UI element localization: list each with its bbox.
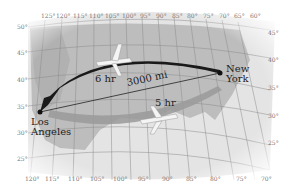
lat-label: 30° (268, 113, 279, 119)
lon-label: 110° (89, 13, 103, 19)
lon-label: 70° (219, 13, 230, 19)
new-york-marker (218, 71, 223, 76)
lon-label: 125° (41, 13, 55, 19)
lat-label: 45° (268, 30, 279, 36)
lat-label: 35° (268, 85, 279, 91)
lat-label: 40° (17, 77, 28, 83)
city-label-los-angeles: Los Angeles (31, 117, 71, 137)
eastbound-duration-label: 5 hr (155, 97, 176, 108)
lon-label: 100° (122, 13, 136, 19)
westbound-duration-label: 6 hr (95, 73, 116, 84)
lon-label: 120° (25, 176, 39, 182)
lon-label: 70° (261, 176, 272, 182)
lon-label: 85° (172, 13, 183, 19)
map-graphic (0, 0, 292, 192)
lon-label: 105° (105, 13, 119, 19)
lon-label: 75° (203, 13, 214, 19)
lon-label: 110° (68, 176, 82, 182)
lat-label: 40° (268, 57, 279, 63)
lon-label: 75° (236, 176, 247, 182)
lon-label: 100° (113, 176, 127, 182)
flight-route-map: 125° 120° 115° 110° 105° 100° 95° 90° 85… (0, 0, 292, 192)
lat-label: 45° (17, 50, 28, 56)
lon-label: 115° (45, 176, 59, 182)
city-label-new-york: New York (226, 64, 249, 84)
lon-label: 90° (156, 13, 167, 19)
lat-label: 30° (17, 130, 28, 136)
city-name-line: Angeles (31, 127, 71, 137)
lat-label: 25° (268, 140, 279, 146)
lat-label: 25° (17, 156, 28, 162)
lon-label: 120° (56, 13, 70, 19)
lon-label: 80° (210, 176, 221, 182)
los-angeles-marker (38, 110, 43, 115)
lon-label: 65° (234, 13, 245, 19)
lat-label: 50° (17, 24, 28, 30)
lon-label: 115° (73, 13, 87, 19)
lon-label: 90° (162, 176, 173, 182)
lon-label: 105° (90, 176, 104, 182)
city-name-line: York (226, 74, 249, 84)
lon-label: 95° (138, 176, 149, 182)
lon-label: 85° (186, 176, 197, 182)
lon-label: 60° (250, 13, 261, 19)
lon-label: 80° (187, 13, 198, 19)
lon-label: 95° (140, 13, 151, 19)
lat-label: 35° (17, 104, 28, 110)
